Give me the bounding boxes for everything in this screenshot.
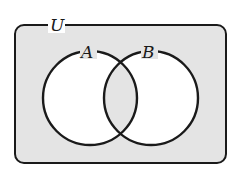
set-b-label: B [141, 42, 155, 62]
universe-label: U [50, 15, 65, 35]
venn-diagram: U A B [0, 0, 236, 170]
set-a-label: A [79, 42, 93, 62]
